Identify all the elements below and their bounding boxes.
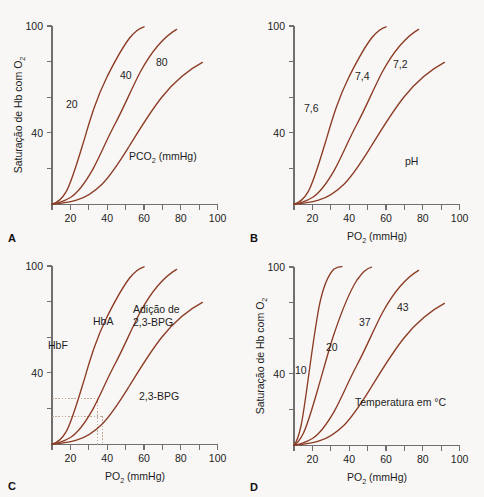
curve-ph-7-6 — [294, 27, 386, 204]
x-tick-label-60: 60 — [138, 212, 150, 224]
curve-temp-37 — [294, 270, 419, 445]
y-tick-label-40: 40 — [273, 127, 285, 139]
x-tick-label-60: 60 — [138, 452, 150, 464]
x-axis-ticks — [294, 446, 460, 452]
y-axis-title: Saturação de Hb com O2 — [12, 57, 27, 174]
y-tick-label-100: 100 — [25, 20, 43, 32]
x-axis-ticks — [52, 205, 218, 211]
panel-c-plot: 100 40 20 40 60 80 100 PO2 (mmHg) — [0, 248, 242, 497]
x-axis-title: PO2 (mmHg) — [347, 471, 407, 486]
y-tick-label-40: 40 — [31, 367, 43, 379]
svg-text:Saturação de Hb com O2: Saturação de Hb com O2 — [12, 57, 27, 174]
curve-hba — [52, 269, 177, 444]
panel-letter-a: A — [8, 232, 16, 244]
x-axis-title: PO2 (mmHg) — [105, 470, 165, 485]
curve-pco2-20 — [52, 27, 144, 204]
panel-d-plot: 100 40 20 40 60 80 100 PO2 (mmHg) Satur — [242, 249, 484, 497]
curve-label-80: 80 — [156, 56, 168, 68]
panel-letter-c: C — [8, 480, 16, 492]
x-axis-ticks — [294, 205, 460, 211]
panel-letter-d: D — [250, 481, 258, 493]
curve-label-20: 20 — [66, 98, 78, 110]
curve-label-20: 20 — [326, 341, 338, 353]
curve-temp-10 — [294, 267, 342, 446]
panel-b-plot: 100 40 20 40 60 80 100 PO2 (mmHg) — [242, 0, 484, 248]
x-tick-label-20: 20 — [307, 453, 319, 465]
curve-label-7-2: 7,2 — [393, 58, 408, 70]
curve-hbf — [52, 267, 144, 444]
curve-pco2-80 — [52, 62, 202, 204]
curve-label-37: 37 — [359, 316, 371, 328]
panel-d: 100 40 20 40 60 80 100 PO2 (mmHg) Satur — [242, 249, 484, 497]
x-axis-title: PO2 (mmHg) — [347, 230, 407, 245]
y-axis-title: Saturação de Hb com O2 — [254, 298, 269, 415]
y-axis-ticks — [289, 267, 294, 409]
curve-label-40: 40 — [120, 69, 132, 81]
x-tick-label-40: 40 — [101, 452, 113, 464]
curve-label-43: 43 — [397, 301, 409, 313]
y-tick-label-40: 40 — [273, 368, 285, 380]
panel-b: 100 40 20 40 60 80 100 PO2 (mmHg) — [242, 0, 484, 248]
x-tick-label-40: 40 — [343, 212, 355, 224]
panel-a: 100 40 20 40 60 80 100 Saturaçã — [0, 0, 242, 248]
curve-ph-7-2 — [294, 62, 444, 204]
x-tick-label-80: 80 — [175, 452, 187, 464]
x-tick-label-40: 40 — [343, 453, 355, 465]
panel-letter-b: B — [250, 232, 258, 244]
curve-label-7-4: 7,4 — [355, 70, 370, 82]
y-tick-label-100: 100 — [267, 261, 285, 273]
y-tick-label-40: 40 — [31, 127, 43, 139]
curve-label-adicao-line2: 2,3-BPG — [133, 316, 173, 328]
curve-label-10: 10 — [295, 364, 307, 376]
x-tick-label-60: 60 — [380, 212, 392, 224]
curve-label-7-6: 7,6 — [304, 102, 319, 114]
panel-c: 100 40 20 40 60 80 100 PO2 (mmHg) — [0, 248, 242, 496]
svg-text:Saturação de Hb com O2: Saturação de Hb com O2 — [254, 298, 269, 415]
x-tick-label-100: 100 — [451, 212, 469, 224]
x-tick-label-100: 100 — [451, 453, 469, 465]
x-tick-label-60: 60 — [380, 453, 392, 465]
x-axis-ticks — [52, 445, 218, 451]
curve-adicao-2-3-bpg — [52, 302, 202, 444]
figure-oxygen-dissociation-curves: 100 40 20 40 60 80 100 Saturaçã — [0, 0, 484, 497]
x-tick-label-40: 40 — [101, 212, 113, 224]
y-axis-ticks — [47, 26, 52, 168]
x-tick-label-20: 20 — [307, 212, 319, 224]
x-tick-label-100: 100 — [209, 212, 227, 224]
x-tick-label-80: 80 — [175, 212, 187, 224]
panel-b-annotation: pH — [405, 155, 418, 167]
curve-label-hba: HbA — [93, 315, 113, 327]
x-tick-label-20: 20 — [65, 212, 77, 224]
panel-a-annotation: PCO2 (mmHg) — [129, 150, 197, 165]
curve-temp-20 — [294, 267, 372, 445]
y-tick-label-100: 100 — [267, 20, 285, 32]
curve-label-hbf: HbF — [48, 339, 68, 351]
curve-ph-7-4 — [294, 29, 419, 204]
x-tick-label-80: 80 — [417, 453, 429, 465]
panel-c-annotation: 2,3-BPG — [139, 390, 179, 402]
panel-d-annotation: Temperatura em °C — [355, 396, 447, 408]
y-axis-ticks — [289, 26, 294, 168]
y-axis-ticks — [47, 266, 52, 408]
panel-a-plot: 100 40 20 40 60 80 100 Saturaçã — [0, 0, 242, 248]
x-tick-label-100: 100 — [209, 452, 227, 464]
y-tick-label-100: 100 — [25, 260, 43, 272]
curve-label-adicao-line1: Adição de — [133, 303, 180, 315]
x-tick-label-80: 80 — [417, 212, 429, 224]
x-tick-label-20: 20 — [65, 452, 77, 464]
